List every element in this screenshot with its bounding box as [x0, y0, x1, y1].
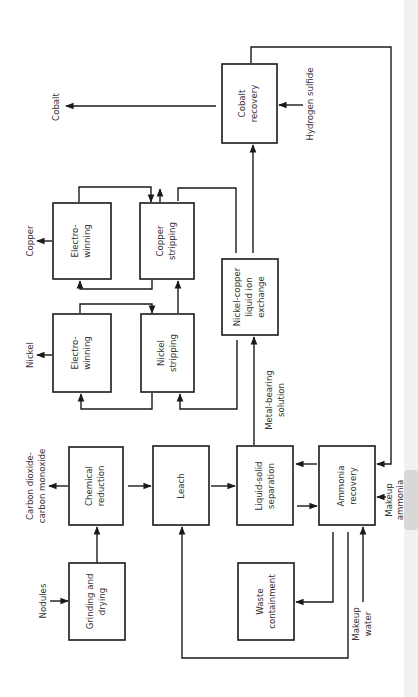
grinding-label-1: Grinding and: [85, 574, 95, 630]
nickel-ew-label-2: winning: [82, 336, 92, 370]
separation-label-1: Liquid-solid: [254, 462, 264, 511]
ammonia-label-1: Ammonia: [336, 466, 346, 507]
nickel-stripping-label-1: Nickel: [156, 340, 166, 366]
arrow-nickel-stripping-to-ew: [81, 393, 152, 409]
reduction-label-2: reduction: [96, 466, 106, 507]
arrow-nickel-ew-to-stripping: [80, 304, 152, 313]
node-nickel-copper-ion-exchange: Nickel-copper liquid ion exchange: [222, 259, 278, 335]
copper-stripping-label-2: stripping: [167, 222, 177, 260]
stream-hydrogen-sulfide: Hydrogen sulfide: [305, 68, 315, 141]
ion-exchange-label-2: liquid ion: [244, 277, 254, 316]
reduction-label-1: Chemical: [84, 466, 94, 506]
ion-exchange-label-3: exchange: [256, 276, 266, 318]
node-ammonia-recovery: Ammonia recovery: [319, 446, 375, 525]
stream-nodules: Nodules: [38, 583, 48, 618]
node-grinding-and-drying: Grinding and drying: [69, 563, 125, 640]
scan-edge: [404, 0, 418, 697]
stream-cobalt: Cobalt: [51, 93, 61, 121]
svg-text:Grinding and: Grinding and: [85, 574, 95, 630]
scan-smudge: [404, 470, 418, 530]
stream-co2-line2: carbon monoxide: [37, 449, 47, 524]
arrow-ammonia-to-waste: [296, 532, 333, 602]
stream-copper: Copper: [25, 225, 35, 256]
stream-nickel: Nickel: [25, 342, 35, 368]
stream-makeup-water-line2: water: [363, 611, 373, 636]
copper-stripping-label-1: Copper: [155, 225, 165, 256]
separation-label-2: separation: [266, 463, 276, 509]
waste-label-1: Waste: [255, 588, 265, 614]
node-leach: Leach: [153, 446, 209, 525]
ion-exchange-label-1: Nickel-copper: [232, 267, 242, 326]
stream-metal-solution-line1: Metal-bearing: [264, 370, 274, 430]
grinding-label-2: drying: [97, 588, 107, 615]
node-copper-electrowinning: Electro- winning: [53, 203, 111, 279]
stream-metal-solution-line2: solution: [276, 383, 286, 417]
stream-makeup-ammonia-line2: ammonia: [395, 480, 405, 520]
waste-label-2: containment: [267, 574, 277, 629]
nickel-ew-label-1: Electro-: [70, 336, 80, 369]
leach-label: Leach: [176, 473, 186, 498]
node-liquid-solid-separation: Liquid-solid separation: [237, 446, 293, 525]
process-flow-diagram: Grinding and drying Chemical reduction L…: [0, 0, 418, 697]
node-nickel-stripping: Nickel stripping: [141, 314, 194, 392]
arrow-copper-ew-to-stripping: [79, 187, 151, 202]
ammonia-label-2: recovery: [348, 467, 358, 505]
copper-ew-label-2: winning: [82, 224, 92, 258]
node-copper-stripping: Copper stripping: [140, 203, 194, 279]
nickel-stripping-label-2: stripping: [168, 334, 178, 372]
node-nickel-electrowinning: Electro- winning: [53, 314, 111, 392]
stream-co2-line1: Carbon dioxide-: [25, 452, 35, 520]
stream-makeup-ammonia-line1: Makeup: [384, 483, 394, 517]
arrow-copper-stripping-to-ew: [80, 280, 152, 289]
node-chemical-reduction: Chemical reduction: [69, 447, 123, 525]
node-waste-containment: Waste containment: [238, 563, 294, 640]
cobalt-recovery-label-1: Cobalt: [237, 89, 247, 117]
copper-ew-label-1: Electro-: [70, 224, 80, 257]
node-cobalt-recovery: Cobalt recovery: [222, 64, 277, 143]
svg-text:drying: drying: [97, 588, 107, 615]
stream-makeup-water-line1: Makeup: [351, 607, 361, 641]
cobalt-recovery-label-2: recovery: [249, 85, 259, 123]
